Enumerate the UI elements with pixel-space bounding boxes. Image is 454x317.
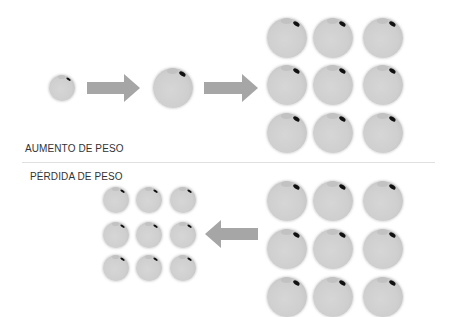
weight-gain-label: AUMENTO DE PESO bbox=[25, 143, 124, 154]
lipid-droplet-icon bbox=[292, 115, 300, 122]
cell-nucleus-icon bbox=[281, 181, 292, 187]
lipid-droplet-icon bbox=[338, 279, 346, 286]
small-fat-cell bbox=[103, 187, 129, 213]
large-fat-cell bbox=[267, 18, 307, 58]
cell-nucleus-icon bbox=[327, 277, 338, 283]
large-fat-cell bbox=[363, 113, 403, 153]
large-fat-cell bbox=[363, 229, 403, 269]
cell-nucleus-icon bbox=[179, 222, 186, 226]
lipid-droplet-icon bbox=[292, 20, 300, 27]
lipid-droplet-icon bbox=[65, 77, 70, 82]
lipid-droplet-icon bbox=[186, 257, 191, 262]
large-fat-cell bbox=[313, 18, 353, 58]
small-fat-cell bbox=[136, 255, 162, 281]
cell-nucleus-icon bbox=[377, 181, 388, 187]
cell-nucleus-icon bbox=[145, 222, 152, 226]
large-fat-cell bbox=[267, 113, 307, 153]
small-fat-cell bbox=[170, 255, 196, 281]
cell-nucleus-icon bbox=[145, 187, 152, 191]
lipid-droplet-icon bbox=[388, 115, 396, 122]
cell-nucleus-icon bbox=[112, 255, 119, 259]
cell-nucleus-icon bbox=[281, 65, 292, 71]
cell-nucleus-icon bbox=[112, 222, 119, 226]
cell-nucleus-icon bbox=[179, 187, 186, 191]
large-fat-cell bbox=[363, 277, 403, 317]
lipid-droplet-icon bbox=[186, 189, 191, 194]
cell-nucleus-icon bbox=[327, 229, 338, 235]
small-fat-cell bbox=[103, 222, 129, 248]
cell-nucleus-icon bbox=[327, 181, 338, 187]
cell-nucleus-icon bbox=[167, 68, 178, 74]
lipid-droplet-icon bbox=[119, 189, 124, 194]
small-fat-cell bbox=[170, 222, 196, 248]
cell-nucleus-icon bbox=[112, 187, 119, 191]
lipid-droplet-icon bbox=[119, 257, 124, 262]
large-fat-cell bbox=[313, 277, 353, 317]
weight-loss-label: PÉRDIDA DE PESO bbox=[30, 171, 123, 182]
lipid-droplet-icon bbox=[338, 20, 346, 27]
large-fat-cell bbox=[363, 18, 403, 58]
cell-nucleus-icon bbox=[327, 18, 338, 24]
cell-nucleus-icon bbox=[377, 113, 388, 119]
lipid-droplet-icon bbox=[152, 224, 157, 229]
cell-nucleus-icon bbox=[327, 65, 338, 71]
lipid-droplet-icon bbox=[292, 67, 300, 74]
lipid-droplet-icon bbox=[338, 231, 346, 238]
large-fat-cell bbox=[267, 229, 307, 269]
large-fat-cell bbox=[313, 65, 353, 105]
cell-nucleus-icon bbox=[281, 229, 292, 235]
lipid-droplet-icon bbox=[388, 183, 396, 190]
cell-nucleus-icon bbox=[281, 18, 292, 24]
lipid-droplet-icon bbox=[178, 70, 186, 77]
large-fat-cell bbox=[267, 65, 307, 105]
lipid-droplet-icon bbox=[292, 183, 300, 190]
large-fat-cell bbox=[313, 113, 353, 153]
lipid-droplet-icon bbox=[338, 115, 346, 122]
cell-nucleus-icon bbox=[377, 229, 388, 235]
cell-nucleus-icon bbox=[281, 113, 292, 119]
right-arrow-icon bbox=[204, 74, 258, 102]
lipid-droplet-icon bbox=[338, 67, 346, 74]
cell-nucleus-icon bbox=[145, 255, 152, 259]
lipid-droplet-icon bbox=[388, 67, 396, 74]
large-fat-cell bbox=[267, 181, 307, 221]
cell-nucleus-icon bbox=[179, 255, 186, 259]
medium-fat-cell bbox=[153, 68, 193, 108]
cell-nucleus-icon bbox=[377, 18, 388, 24]
cell-nucleus-icon bbox=[377, 65, 388, 71]
large-fat-cell bbox=[363, 181, 403, 221]
left-arrow-icon bbox=[205, 220, 258, 248]
lipid-droplet-icon bbox=[388, 231, 396, 238]
large-fat-cell bbox=[267, 277, 307, 317]
large-fat-cell bbox=[363, 65, 403, 105]
lipid-droplet-icon bbox=[388, 279, 396, 286]
cell-nucleus-icon bbox=[377, 277, 388, 283]
small-fat-cell bbox=[170, 187, 196, 213]
cell-nucleus-icon bbox=[58, 75, 65, 79]
lipid-droplet-icon bbox=[119, 224, 124, 229]
lipid-droplet-icon bbox=[152, 189, 157, 194]
large-fat-cell bbox=[313, 229, 353, 269]
right-arrow-icon bbox=[87, 74, 140, 102]
lipid-droplet-icon bbox=[388, 20, 396, 27]
cell-nucleus-icon bbox=[327, 113, 338, 119]
small-fat-cell bbox=[49, 75, 75, 101]
lipid-droplet-icon bbox=[152, 257, 157, 262]
lipid-droplet-icon bbox=[292, 279, 300, 286]
small-fat-cell bbox=[136, 187, 162, 213]
large-fat-cell bbox=[313, 181, 353, 221]
section-divider bbox=[22, 162, 435, 163]
lipid-droplet-icon bbox=[292, 231, 300, 238]
small-fat-cell bbox=[103, 255, 129, 281]
lipid-droplet-icon bbox=[338, 183, 346, 190]
lipid-droplet-icon bbox=[186, 224, 191, 229]
cell-nucleus-icon bbox=[281, 277, 292, 283]
small-fat-cell bbox=[136, 222, 162, 248]
